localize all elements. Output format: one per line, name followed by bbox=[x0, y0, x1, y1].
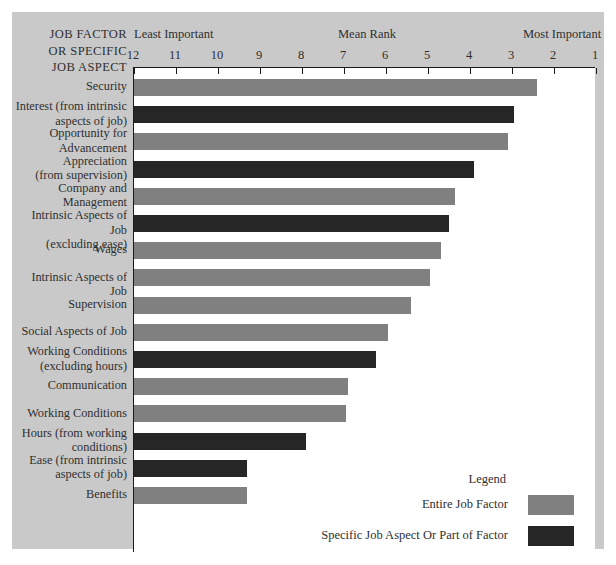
x-tick-label-8: 8 bbox=[298, 48, 304, 63]
x-tick-mark bbox=[554, 68, 555, 74]
bar-5 bbox=[134, 188, 455, 205]
category-label-line: Appreciation bbox=[12, 154, 127, 169]
bar-3 bbox=[134, 133, 508, 150]
chart-figure: JOB FACTOR OR SPECIFIC JOB ASPECT Least … bbox=[12, 12, 604, 549]
bar-4 bbox=[134, 161, 474, 178]
x-tick-label-7: 7 bbox=[340, 48, 346, 63]
x-tick-label-3: 3 bbox=[508, 48, 514, 63]
x-tick-mark bbox=[470, 68, 471, 74]
x-tick-mark bbox=[134, 68, 135, 74]
category-label-8: Intrinsic Aspects of Job bbox=[12, 270, 127, 299]
row-axis-title-line-1: JOB FACTOR bbox=[12, 26, 127, 43]
category-label-line: Wages bbox=[12, 242, 127, 257]
bar-8 bbox=[134, 269, 430, 286]
category-label-4: Appreciation(from supervision) bbox=[12, 154, 127, 183]
x-tick-mark bbox=[302, 68, 303, 74]
axis-label-most-important: Most Important bbox=[523, 27, 601, 42]
category-label-line: Opportunity for bbox=[12, 126, 127, 141]
bar-7 bbox=[134, 242, 441, 259]
category-label-line: Benefits bbox=[12, 487, 127, 502]
bar-12 bbox=[134, 378, 348, 395]
x-tick-label-11: 11 bbox=[169, 48, 181, 63]
category-label-line: Social Aspects of Job bbox=[12, 324, 127, 339]
bar-6 bbox=[134, 215, 449, 232]
x-tick-mark bbox=[386, 68, 387, 74]
category-label-9: Supervision bbox=[12, 297, 127, 312]
category-label-16: Benefits bbox=[12, 487, 127, 502]
category-label-1: Security bbox=[12, 79, 127, 94]
x-axis-tick-labels: 121110987654321 bbox=[12, 48, 604, 64]
bar-10 bbox=[134, 324, 388, 341]
bar-9 bbox=[134, 297, 411, 314]
x-tick-label-12: 12 bbox=[127, 48, 140, 63]
x-tick-mark bbox=[260, 68, 261, 74]
category-label-5: Company andManagement bbox=[12, 181, 127, 210]
bar-14 bbox=[134, 433, 306, 450]
legend-item-label: Entire Job Factor bbox=[422, 497, 508, 512]
x-tick-mark bbox=[428, 68, 429, 74]
category-label-line: Intrinsic Aspects of Job bbox=[12, 270, 127, 299]
category-label-line: Company and bbox=[12, 181, 127, 196]
x-tick-label-2: 2 bbox=[550, 48, 556, 63]
legend-title: Legend bbox=[469, 472, 506, 487]
category-label-7: Wages bbox=[12, 242, 127, 257]
category-label-12: Communication bbox=[12, 378, 127, 393]
bar-13 bbox=[134, 405, 346, 422]
category-label-line: (excluding hours) bbox=[12, 359, 127, 374]
x-tick-mark bbox=[596, 68, 597, 74]
bar-11 bbox=[134, 351, 376, 368]
x-tick-mark bbox=[512, 68, 513, 74]
x-tick-label-9: 9 bbox=[256, 48, 262, 63]
legend-swatch-factor bbox=[528, 495, 574, 515]
category-label-line: aspects of job) bbox=[12, 467, 127, 482]
axis-label-least-important: Least Important bbox=[134, 27, 214, 42]
category-label-14: Hours (from workingconditions) bbox=[12, 426, 127, 455]
x-tick-mark bbox=[218, 68, 219, 74]
axis-label-mean-rank: Mean Rank bbox=[338, 27, 396, 42]
category-label-15: Ease (from intrinsicaspects of job) bbox=[12, 453, 127, 482]
x-tick-label-4: 4 bbox=[466, 48, 472, 63]
bar-16 bbox=[134, 487, 247, 504]
category-label-line: Working Conditions bbox=[12, 344, 127, 359]
bar-2 bbox=[134, 106, 514, 123]
x-tick-label-10: 10 bbox=[211, 48, 224, 63]
x-tick-mark bbox=[344, 68, 345, 74]
category-label-line: Working Conditions bbox=[12, 406, 127, 421]
category-label-10: Social Aspects of Job bbox=[12, 324, 127, 339]
legend-item-label: Specific Job Aspect Or Part of Factor bbox=[321, 528, 508, 543]
category-label-11: Working Conditions(excluding hours) bbox=[12, 344, 127, 373]
category-label-3: Opportunity forAdvancement bbox=[12, 126, 127, 155]
category-label-line: Communication bbox=[12, 378, 127, 393]
bar-1 bbox=[134, 79, 537, 96]
category-label-line: Supervision bbox=[12, 297, 127, 312]
x-tick-label-1: 1 bbox=[592, 48, 598, 63]
x-tick-mark bbox=[176, 68, 177, 74]
x-tick-label-6: 6 bbox=[382, 48, 388, 63]
category-label-line: Security bbox=[12, 79, 127, 94]
category-label-line: Ease (from intrinsic bbox=[12, 453, 127, 468]
category-label-line: Intrinsic Aspects of Job bbox=[12, 208, 127, 237]
legend-swatch-specific bbox=[528, 526, 574, 546]
category-label-line: Hours (from working bbox=[12, 426, 127, 441]
category-label-2: Interest (from intrinsicaspects of job) bbox=[12, 99, 127, 128]
plot-area: Legend Entire Job Factor Specific Job As… bbox=[133, 67, 595, 552]
category-label-13: Working Conditions bbox=[12, 406, 127, 421]
bar-15 bbox=[134, 460, 247, 477]
category-label-line: Interest (from intrinsic bbox=[12, 99, 127, 114]
x-tick-label-5: 5 bbox=[424, 48, 430, 63]
